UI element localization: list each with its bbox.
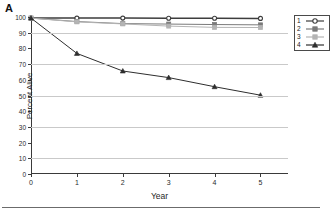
legend-label: 2 [297, 25, 303, 33]
legend-label: 3 [297, 33, 303, 41]
x-tick [169, 174, 170, 177]
bottom-divider [2, 207, 320, 208]
x-tick-label: 3 [167, 179, 171, 186]
gridline [31, 96, 288, 97]
data-point [121, 16, 125, 20]
x-tick-label: 0 [29, 179, 33, 186]
data-point [313, 35, 317, 39]
y-tick [28, 17, 31, 18]
gridline [31, 33, 288, 34]
x-tick [31, 174, 32, 177]
series-line [31, 18, 260, 25]
y-tick [28, 158, 31, 159]
y-tick [28, 64, 31, 65]
gridline [31, 64, 288, 65]
y-tick-label: 100 [15, 14, 26, 21]
y-tick [28, 33, 31, 34]
legend-symbol-square-icon [305, 33, 327, 41]
x-tick-label: 2 [121, 179, 125, 186]
x-tick [215, 174, 216, 177]
gridline [31, 158, 288, 159]
data-point [258, 16, 262, 20]
legend-symbol-triangle-icon [305, 41, 327, 49]
data-point [75, 20, 79, 24]
legend-label: 4 [297, 41, 303, 49]
x-axis-label: Year [151, 191, 168, 201]
x-tick-label: 1 [75, 179, 79, 186]
y-tick-label: 70 [19, 61, 26, 68]
x-tick [123, 174, 124, 177]
y-tick-label: 80 [19, 45, 26, 52]
plot-inner: 0102030405060708090100012345 [31, 17, 288, 174]
data-point [258, 26, 262, 30]
y-tick [28, 127, 31, 128]
y-tick-label: 90 [19, 29, 26, 36]
series-line [31, 18, 260, 27]
legend-item-1[interactable]: 1 [297, 17, 327, 25]
panel-label: A [5, 2, 13, 14]
data-point [313, 27, 317, 31]
data-point [213, 16, 217, 20]
y-tick-label: 10 [19, 155, 26, 162]
legend-item-3[interactable]: 3 [297, 33, 327, 41]
data-point [167, 24, 171, 28]
legend: 1234 [294, 15, 330, 51]
legend-item-2[interactable]: 2 [297, 25, 327, 33]
data-point [213, 25, 217, 29]
y-axis-label: Percent Alive [25, 72, 34, 119]
x-tick [260, 174, 261, 177]
series-line [31, 18, 260, 95]
legend-symbol-square-icon [305, 25, 327, 33]
plot-area: 0102030405060708090100012345 Percent Ali… [31, 17, 288, 174]
data-point [121, 22, 125, 26]
y-tick-label: 20 [19, 139, 26, 146]
y-tick [28, 143, 31, 144]
x-tick-label: 4 [213, 179, 217, 186]
x-tick-label: 5 [259, 179, 263, 186]
y-tick-label: 0 [22, 171, 26, 178]
data-point [313, 19, 317, 23]
series-1 [29, 16, 262, 20]
data-point [167, 16, 171, 20]
legend-symbol-circle-icon [305, 17, 327, 25]
y-tick [28, 48, 31, 49]
gridline [31, 127, 288, 128]
y-tick-label: 30 [19, 123, 26, 130]
legend-label: 1 [297, 17, 303, 25]
x-tick [77, 174, 78, 177]
legend-item-4[interactable]: 4 [297, 41, 327, 49]
